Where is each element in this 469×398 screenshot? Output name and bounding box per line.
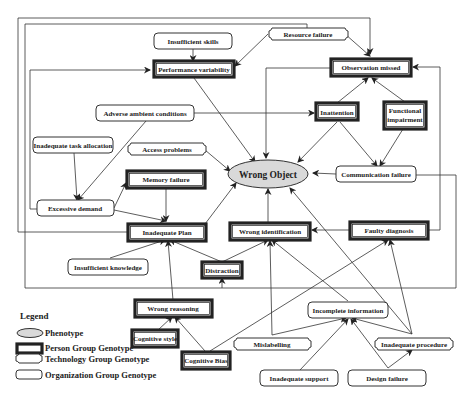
notched-rect-icon: [16, 354, 42, 363]
node-memory-failure[interactable]: Memory failure: [127, 171, 205, 188]
svg-text:Observation missed: Observation missed: [342, 64, 401, 72]
node-mislabelling[interactable]: Mislabelling: [234, 338, 311, 350]
node-observation-missed[interactable]: Observation missed: [331, 59, 411, 76]
node-incomplete-information[interactable]: Incomplete information: [308, 302, 388, 318]
svg-text:Faulty diagnosis: Faulty diagnosis: [365, 227, 414, 235]
svg-text:Performance variability: Performance variability: [158, 66, 230, 74]
svg-text:impairment: impairment: [387, 116, 423, 124]
svg-text:Person Group Genotype: Person Group Genotype: [45, 343, 133, 353]
node-cognitive-bias[interactable]: Cognitive Bias: [182, 352, 230, 369]
svg-text:Functional: Functional: [389, 107, 421, 115]
svg-text:Inadequate support: Inadequate support: [270, 375, 330, 383]
node-inadequate-task-allocation[interactable]: Inadequate task allocation: [33, 137, 113, 153]
svg-text:Mislabelling: Mislabelling: [254, 341, 291, 349]
edge-faulty-diagnosis-to-observation-missed: [413, 67, 440, 230]
node-insufficient-skills[interactable]: Insufficient skills: [154, 33, 232, 49]
node-access-problems[interactable]: Access problems: [128, 143, 206, 155]
svg-text:Cognitive Bias: Cognitive Bias: [184, 357, 228, 365]
svg-text:Insufficient knowledge: Insufficient knowledge: [74, 264, 142, 272]
legend-item-technology: Technology Group Genotype: [16, 354, 150, 364]
node-performance-variability[interactable]: Performance variability: [154, 61, 234, 77]
node-adverse-ambient-conditions[interactable]: Adverse ambient conditions: [96, 105, 194, 121]
node-resource-failure[interactable]: Resource failure: [269, 28, 348, 40]
svg-text:Inadequate Plan: Inadequate Plan: [142, 229, 191, 237]
svg-text:Legend: Legend: [20, 311, 49, 321]
legend-item-phenotype: Phenotype: [17, 328, 83, 338]
node-cognitive-style[interactable]: Cognitive style: [132, 330, 178, 347]
node-excessive-demand[interactable]: Excessive demand: [37, 200, 114, 216]
node-communication-failure[interactable]: Communication failure: [336, 166, 416, 182]
svg-text:Incomplete information: Incomplete information: [313, 307, 384, 315]
svg-text:Wrong reasoning: Wrong reasoning: [147, 305, 199, 313]
node-wrong-identification[interactable]: Wrong identification: [230, 223, 310, 240]
legend-item-organization: Organization Group Genotype: [16, 370, 157, 380]
node-inattention[interactable]: Inattention: [316, 103, 358, 120]
node-insufficient-knowledge[interactable]: Insufficient knowledge: [68, 259, 148, 275]
svg-text:Technology Group Genotype: Technology Group Genotype: [45, 354, 150, 364]
svg-text:Insufficient skills: Insufficient skills: [167, 38, 218, 46]
node-wrong-reasoning[interactable]: Wrong reasoning: [135, 300, 212, 317]
svg-text:Memory failure: Memory failure: [142, 176, 189, 184]
svg-text:Phenotype: Phenotype: [45, 328, 83, 338]
svg-text:Organization Group Genotype: Organization Group Genotype: [45, 370, 157, 380]
node-faulty-diagnosis[interactable]: Faulty diagnosis: [350, 222, 428, 239]
node-functional-impairment[interactable]: Functional impairment: [384, 102, 426, 129]
svg-text:Wrong Object: Wrong Object: [239, 170, 298, 180]
svg-text:Resource failure: Resource failure: [284, 31, 333, 39]
ellipse-icon: [17, 329, 43, 338]
svg-text:Access problems: Access problems: [142, 146, 192, 154]
node-inadequate-procedure[interactable]: Inadequate procedure: [375, 338, 453, 350]
svg-text:Inadequate procedure: Inadequate procedure: [381, 341, 447, 349]
node-distraction[interactable]: Distraction: [202, 262, 242, 278]
node-wrong-object[interactable]: Wrong Object: [228, 160, 308, 188]
svg-text:Excessive demand: Excessive demand: [48, 205, 102, 213]
thick-rect-icon: [17, 344, 42, 353]
node-inadequate-support[interactable]: Inadequate support: [260, 370, 338, 386]
svg-text:Adverse ambient conditions: Adverse ambient conditions: [103, 110, 187, 118]
svg-text:Wrong identification: Wrong identification: [239, 228, 301, 236]
svg-text:Design failure: Design failure: [366, 375, 408, 383]
svg-text:Inadequate task allocation: Inadequate task allocation: [34, 142, 113, 150]
svg-text:Inattention: Inattention: [320, 109, 354, 117]
node-design-failure[interactable]: Design failure: [348, 370, 426, 386]
rounded-rect-icon: [16, 370, 42, 379]
svg-text:Cognitive style: Cognitive style: [133, 335, 177, 343]
svg-text:Communication failure: Communication failure: [341, 171, 411, 179]
svg-text:Distraction: Distraction: [205, 267, 239, 275]
legend-item-person: Person Group Genotype: [17, 343, 133, 353]
cream-diagram: Wrong Object Insufficient skills Adverse…: [0, 0, 469, 398]
node-inadequate-plan[interactable]: Inadequate Plan: [128, 224, 206, 241]
